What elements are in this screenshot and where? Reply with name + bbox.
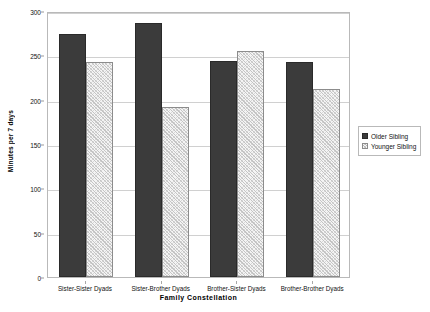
bar-younger-sibling <box>313 89 340 277</box>
bar-group <box>59 13 113 277</box>
y-tick-mark <box>41 233 44 234</box>
legend-label-younger: Younger Sibling <box>371 143 416 150</box>
y-tick-label: 50 <box>34 230 41 237</box>
x-tick-mark <box>85 281 86 284</box>
x-tick-mark <box>312 281 313 284</box>
plot-area <box>47 12 350 278</box>
y-tick-mark <box>41 189 44 190</box>
y-tick-mark <box>41 100 44 101</box>
x-tick-mark <box>236 281 237 284</box>
bar-younger-sibling <box>162 107 189 277</box>
x-tick-label: Brother-Sister Dyads <box>199 285 275 292</box>
y-tick-label: 200 <box>30 97 41 104</box>
y-tick-mark <box>41 12 44 13</box>
bar-group <box>286 13 340 277</box>
y-tick-mark <box>41 278 44 279</box>
legend-label-older: Older Sibling <box>371 133 408 140</box>
x-tick-mark <box>161 281 162 284</box>
y-axis-title-text: Minutes per 7 days <box>7 110 14 172</box>
bar-older-sibling <box>59 34 86 277</box>
legend-item-younger-sibling: Younger Sibling <box>362 141 416 151</box>
bars-layer <box>48 13 349 277</box>
bar-chart: Minutes per 7 days 050100150200250300 Si… <box>0 0 430 312</box>
y-tick-mark <box>41 56 44 57</box>
y-tick-mark <box>41 145 44 146</box>
bar-older-sibling <box>286 62 313 277</box>
legend-swatch-older-icon <box>362 133 368 139</box>
legend-item-older-sibling: Older Sibling <box>362 131 416 141</box>
bar-younger-sibling <box>86 62 113 277</box>
bar-younger-sibling <box>237 51 264 277</box>
bar-older-sibling <box>135 23 162 277</box>
bar-group <box>135 13 189 277</box>
bar-group <box>210 13 264 277</box>
y-tick-label: 100 <box>30 186 41 193</box>
x-axis-tick-labels: Sister-Sister DyadsSister-Brother DyadsB… <box>47 281 350 295</box>
bar-older-sibling <box>210 61 237 277</box>
x-tick-label: Brother-Brother Dyads <box>274 285 350 292</box>
x-axis-title: Family Constellation <box>47 294 350 301</box>
chart-legend: Older Sibling Younger Sibling <box>358 126 421 156</box>
y-tick-label: 300 <box>30 9 41 16</box>
x-tick-label: Sister-Sister Dyads <box>47 285 123 292</box>
legend-swatch-younger-icon <box>362 143 368 149</box>
y-tick-label: 150 <box>30 142 41 149</box>
y-tick-label: 250 <box>30 53 41 60</box>
x-tick-label: Sister-Brother Dyads <box>123 285 199 292</box>
y-axis-tick-labels: 050100150200250300 <box>18 12 44 278</box>
y-axis-title: Minutes per 7 days <box>2 0 18 282</box>
